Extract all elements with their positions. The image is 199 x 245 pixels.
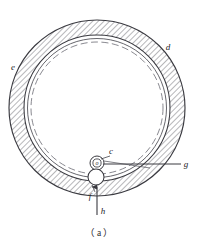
label-o: o — [96, 160, 99, 166]
outer-hatched-ring — [0, 0, 199, 245]
label-g: g — [184, 159, 189, 169]
label-h: h — [101, 206, 106, 216]
upper-roller-assembly: o — [90, 156, 104, 170]
technical-diagram-svg: o e d c g f h （ a ） — [0, 0, 199, 245]
label-d: d — [166, 42, 171, 52]
label-c: c — [109, 146, 113, 156]
label-e: e — [11, 62, 15, 72]
figure-caption: （ a ） — [85, 227, 114, 238]
figure-container: o e d c g f h （ a ） — [0, 0, 199, 245]
lower-roller-circle — [88, 169, 104, 185]
